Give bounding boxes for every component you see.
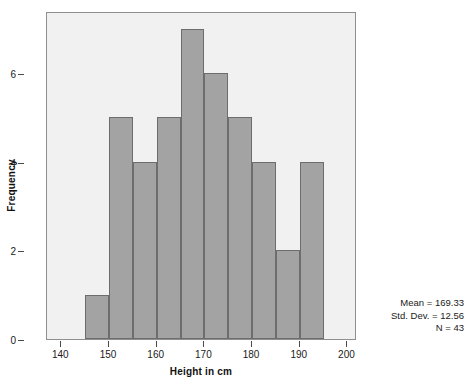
y-tick-label: 0: [10, 335, 16, 346]
y-axis-title: Frequency: [6, 131, 17, 241]
histogram-bar: [85, 295, 109, 339]
x-tick-mark: [346, 341, 347, 347]
histogram-bar: [300, 162, 324, 339]
x-tick-label: 190: [290, 349, 307, 360]
y-tick-mark: [18, 340, 24, 341]
x-tick-label: 170: [195, 349, 212, 360]
stats-n: N = 43: [358, 322, 464, 335]
y-tick-mark: [18, 74, 24, 75]
y-tick-mark: [18, 163, 24, 164]
x-tick-mark: [60, 341, 61, 347]
histogram-bar: [109, 117, 133, 339]
histogram-bar: [181, 29, 205, 339]
x-tick-label: 150: [100, 349, 117, 360]
stats-stddev: Std. Dev. = 12.56: [358, 310, 464, 323]
stats-mean: Mean = 169.33: [358, 297, 464, 310]
x-tick-label: 160: [147, 349, 164, 360]
y-tick-label: 2: [10, 246, 16, 257]
x-tick-mark: [299, 341, 300, 347]
x-tick-mark: [108, 341, 109, 347]
y-tick-label: 4: [10, 157, 16, 168]
histogram-bar: [228, 117, 252, 339]
plot-area: [47, 13, 355, 339]
histogram-bar: [133, 162, 157, 339]
histogram-bar: [157, 117, 181, 339]
x-tick-mark: [156, 341, 157, 347]
stats-annotation: Mean = 169.33 Std. Dev. = 12.56 N = 43: [358, 297, 464, 335]
y-axis: Frequency 0246: [0, 0, 46, 390]
x-tick-label: 200: [338, 349, 355, 360]
y-tick-mark: [18, 251, 24, 252]
x-tick-label: 140: [52, 349, 69, 360]
plot-frame: [46, 12, 356, 340]
histogram-bar: [276, 250, 300, 339]
x-tick-label: 180: [243, 349, 260, 360]
histogram-bar: [204, 73, 228, 339]
histogram-bar: [252, 162, 276, 339]
x-tick-mark: [203, 341, 204, 347]
x-axis-title: Height in cm: [46, 366, 356, 377]
x-tick-mark: [251, 341, 252, 347]
y-tick-label: 6: [10, 69, 16, 80]
histogram-figure: Frequency 0246 Height in cm Mean = 169.3…: [0, 0, 466, 390]
